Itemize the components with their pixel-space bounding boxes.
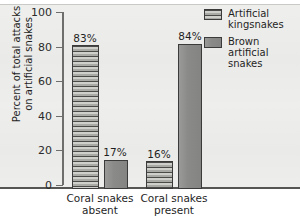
y-tick-60: [56, 81, 63, 82]
y-tick-0: [56, 185, 63, 186]
legend-swatch-striped-icon: [204, 9, 222, 20]
bar-brown-coral-present: [178, 44, 202, 189]
legend-item-brown-artificial-snakes: Brown artificial snakes: [204, 36, 298, 69]
bar-kingsnakes-coral-absent: [72, 45, 99, 189]
bar-chart-figure: 100 80 60 40 20 0 Percent of total attac…: [0, 0, 300, 221]
bar-kingsnakes-coral-present: [146, 161, 173, 189]
bar-brown-coral-absent: [104, 160, 128, 189]
y-tick-label-20: 20: [8, 145, 52, 156]
y-tick-80: [56, 47, 63, 48]
y-tick-label-0: 0: [8, 180, 52, 191]
legend: Artificial kingsnakes Brown artificial s…: [204, 8, 298, 75]
legend-label-brown-artificial-snakes: Brown artificial snakes: [228, 36, 268, 69]
legend-swatch-solid-icon: [204, 37, 222, 48]
bar-label-kingsnakes-coral-present: 16%: [136, 149, 182, 160]
legend-label-artificial-kingsnakes: Artificial kingsnakes: [228, 8, 284, 30]
y-tick-40: [56, 116, 63, 117]
y-axis-title: Percent of total attacks on artificial s…: [11, 0, 35, 129]
bar-label-brown-coral-absent: 17%: [92, 147, 138, 158]
x-label-coral-snakes-present: Coral snakes present: [131, 192, 217, 216]
y-tick-100: [56, 12, 63, 13]
y-tick-20: [56, 150, 63, 151]
legend-item-artificial-kingsnakes: Artificial kingsnakes: [204, 8, 298, 30]
bar-label-kingsnakes-coral-absent: 83%: [62, 33, 108, 44]
